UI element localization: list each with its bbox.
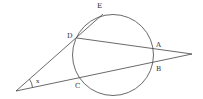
line-p-to-q	[16, 54, 192, 91]
label-e: E	[97, 2, 102, 10]
line-d-to-q	[77, 38, 192, 54]
label-c: C	[75, 82, 80, 90]
circle	[73, 15, 154, 96]
label-angle-x: x	[36, 77, 40, 84]
line-p-to-e	[16, 14, 103, 91]
label-d: D	[67, 32, 73, 40]
label-b: B	[156, 65, 161, 73]
geometry-diagram: E D A B C x	[0, 0, 203, 99]
angle-arc	[30, 79, 33, 87]
label-a: A	[155, 41, 162, 49]
